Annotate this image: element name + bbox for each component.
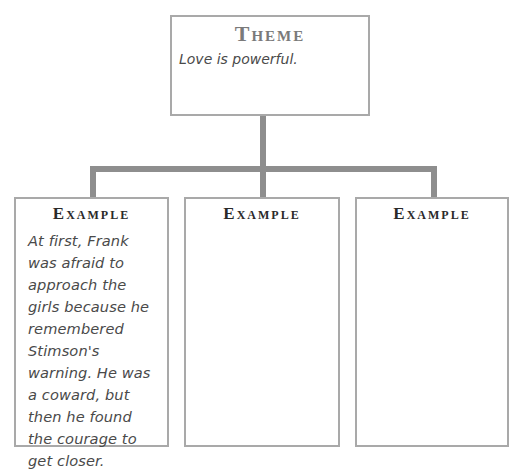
example-heading: Example [16,204,167,224]
connector-drop-left [90,166,96,198]
example-box-1: Example At first, Frank was afraid to ap… [14,197,169,447]
theme-heading: Theme [172,21,368,47]
connector-drop-right [431,166,437,198]
connector-stem [260,116,266,168]
example-box-3: Example [355,197,509,447]
example-text[interactable]: At first, Frank was afraid to approach t… [28,230,159,472]
theme-text[interactable]: Love is powerful. [179,51,368,67]
example-heading: Example [357,204,507,224]
example-heading: Example [186,204,338,224]
connector-drop-middle [260,166,266,198]
example-box-2: Example [184,197,340,447]
theme-box: Theme Love is powerful. [170,15,370,116]
